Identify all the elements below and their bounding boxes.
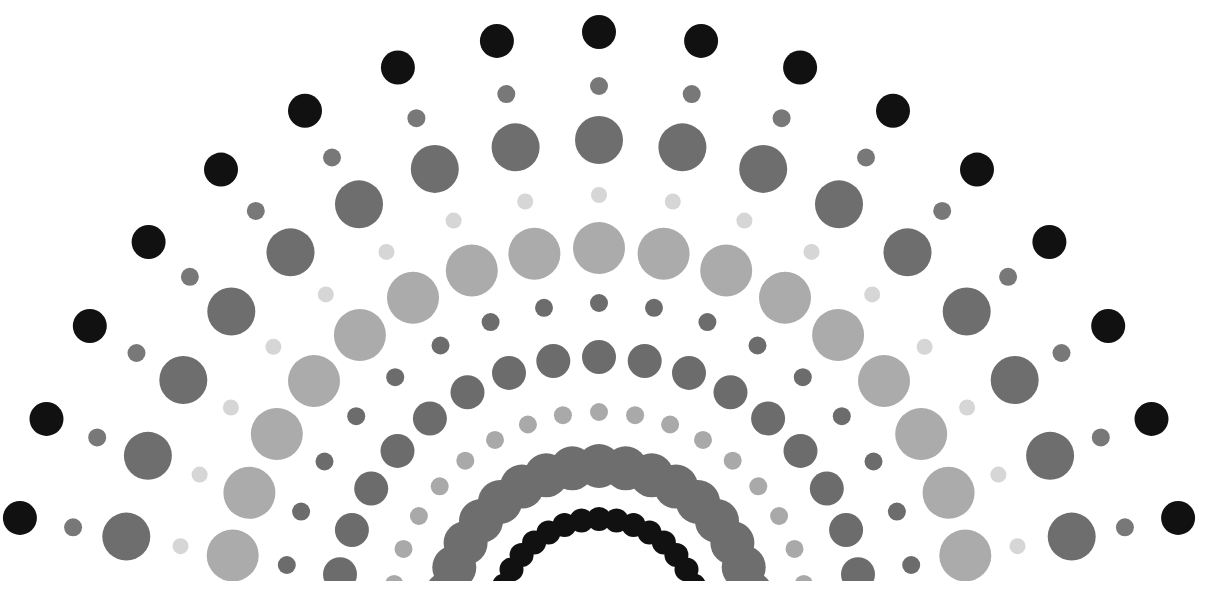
dot-circle-icon xyxy=(783,51,817,85)
dot-circle-icon xyxy=(251,408,303,460)
dot-circle-icon xyxy=(1161,501,1195,535)
dot-circle-icon xyxy=(207,288,255,336)
dot-circle-icon xyxy=(751,402,785,436)
dot-circle-icon xyxy=(413,402,447,436)
dot-circle-icon xyxy=(431,477,449,495)
dot-circle-icon xyxy=(876,94,910,128)
dot-circle-icon xyxy=(323,149,341,167)
dot-circle-icon xyxy=(288,94,322,128)
dot-circle-icon xyxy=(124,432,172,480)
dot-circle-icon xyxy=(207,529,259,581)
dot-circle-icon xyxy=(694,431,712,449)
ring-10-black-overlap xyxy=(486,507,712,581)
dot-circle-icon xyxy=(590,77,608,95)
dot-circle-icon xyxy=(1026,432,1074,480)
dot-circle-icon xyxy=(683,85,701,103)
dot-circle-icon xyxy=(492,123,540,171)
dot-circle-icon xyxy=(888,503,906,521)
dot-circle-icon xyxy=(591,187,607,203)
dot-circle-icon xyxy=(3,501,37,535)
dot-circle-icon xyxy=(508,228,560,280)
dot-circle-icon xyxy=(492,356,526,390)
dot-circle-icon xyxy=(278,556,296,574)
dot-circle-icon xyxy=(865,453,883,471)
dot-circle-icon xyxy=(749,477,767,495)
dot-circle-icon xyxy=(804,244,820,260)
dot-circle-icon xyxy=(480,24,514,58)
dot-circle-icon xyxy=(841,557,875,581)
dot-circle-icon xyxy=(204,153,238,187)
dot-circle-icon xyxy=(247,202,265,220)
dot-circle-icon xyxy=(815,180,863,228)
dot-circle-icon xyxy=(536,344,570,378)
dot-circle-icon xyxy=(829,513,863,547)
dot-circle-icon xyxy=(347,407,365,425)
dot-circle-icon xyxy=(575,116,623,164)
dot-circle-icon xyxy=(1032,225,1066,259)
dot-circle-icon xyxy=(714,375,748,409)
dot-circle-icon xyxy=(991,356,1039,404)
dot-circle-icon xyxy=(784,434,818,468)
dot-circle-icon xyxy=(902,556,920,574)
dot-circle-icon xyxy=(334,309,386,361)
dot-circle-icon xyxy=(1116,518,1134,536)
dot-circle-icon xyxy=(812,309,864,361)
dot-circle-icon xyxy=(590,403,608,421)
dot-circle-icon xyxy=(1010,538,1026,554)
dot-circle-icon xyxy=(582,15,616,49)
dot-circle-icon xyxy=(645,299,663,317)
dot-circle-icon xyxy=(517,194,533,210)
dot-circle-icon xyxy=(395,540,413,558)
dot-circle-icon xyxy=(381,434,415,468)
dot-circle-icon xyxy=(661,416,679,434)
dot-circle-icon xyxy=(386,368,404,386)
dot-circle-icon xyxy=(265,339,281,355)
dot-circle-icon xyxy=(73,309,107,343)
dot-circle-icon xyxy=(30,402,64,436)
dot-circle-icon xyxy=(833,407,851,425)
dot-circle-icon xyxy=(354,472,388,506)
dot-circle-icon xyxy=(192,467,208,483)
dot-circle-icon xyxy=(385,575,403,581)
dot-circle-icon xyxy=(102,513,150,561)
dot-circle-icon xyxy=(486,431,504,449)
dot-circle-icon xyxy=(923,467,975,519)
dot-circle-icon xyxy=(933,202,951,220)
dot-circle-icon xyxy=(407,109,425,127)
dot-circle-icon xyxy=(223,467,275,519)
dot-circle-icon xyxy=(446,244,498,296)
dot-circle-icon xyxy=(323,557,357,581)
dot-circle-icon xyxy=(770,507,788,525)
dot-circle-icon xyxy=(88,428,106,446)
dot-circle-icon xyxy=(794,368,812,386)
dot-circle-icon xyxy=(411,145,459,193)
dot-circle-icon xyxy=(590,294,608,312)
dot-circle-icon xyxy=(159,356,207,404)
dot-circle-icon xyxy=(318,286,334,302)
dot-circle-icon xyxy=(990,467,1006,483)
dot-circle-icon xyxy=(335,180,383,228)
dot-circle-icon xyxy=(759,272,811,324)
dot-circle-icon xyxy=(999,268,1017,286)
dot-circle-icon xyxy=(795,575,813,581)
dot-circle-icon xyxy=(173,538,189,554)
dot-circle-icon xyxy=(628,344,662,378)
dot-circle-icon xyxy=(132,225,166,259)
dot-circle-icon xyxy=(884,228,932,276)
dot-circle-icon xyxy=(573,222,625,274)
dot-circle-icon xyxy=(665,194,681,210)
dot-circle-icon xyxy=(223,400,239,416)
dot-circle-icon xyxy=(943,288,991,336)
dot-circle-icon xyxy=(381,51,415,85)
dot-circle-icon xyxy=(519,416,537,434)
dot-circle-icon xyxy=(895,408,947,460)
dot-circle-icon xyxy=(638,228,690,280)
dot-circle-icon xyxy=(700,244,752,296)
dot-circle-icon xyxy=(335,513,369,547)
dot-circle-icon xyxy=(1053,344,1071,362)
dot-circle-icon xyxy=(451,375,485,409)
dot-circle-icon xyxy=(482,313,500,331)
dot-circle-icon xyxy=(292,503,310,521)
dot-circle-icon xyxy=(786,540,804,558)
dot-circle-icon xyxy=(267,228,315,276)
